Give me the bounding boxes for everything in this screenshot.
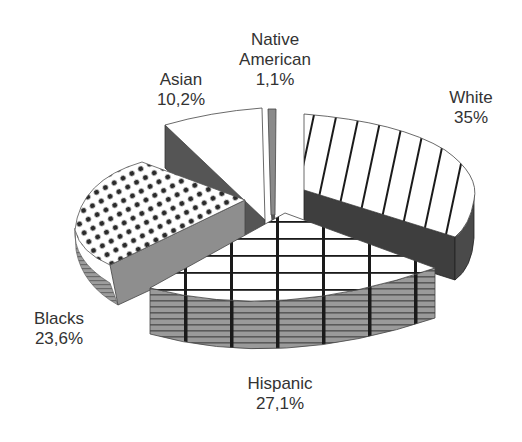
label-hispanic: Hispanic 27,1% bbox=[230, 374, 330, 414]
label-native-name-1: Native bbox=[228, 30, 322, 50]
label-asian-value: 10,2% bbox=[146, 90, 216, 110]
slice-native-american bbox=[268, 109, 276, 226]
label-native-name-2: American bbox=[228, 50, 322, 70]
label-white: White 35% bbox=[436, 88, 506, 128]
label-white-name: White bbox=[436, 88, 506, 108]
label-blacks-name: Blacks bbox=[22, 309, 96, 329]
label-native-american: Native American 1,1% bbox=[228, 30, 322, 90]
label-native-value: 1,1% bbox=[228, 70, 322, 90]
label-blacks-value: 23,6% bbox=[22, 329, 96, 349]
label-white-value: 35% bbox=[436, 108, 506, 128]
label-asian: Asian 10,2% bbox=[146, 70, 216, 110]
label-hispanic-name: Hispanic bbox=[230, 374, 330, 394]
label-blacks: Blacks 23,6% bbox=[22, 309, 96, 349]
label-hispanic-value: 27,1% bbox=[230, 394, 330, 414]
label-asian-name: Asian bbox=[146, 70, 216, 90]
